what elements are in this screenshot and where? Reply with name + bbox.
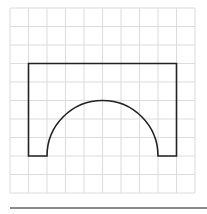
bottom-divider-rule (10, 207, 207, 209)
arch-on-grid-figure (0, 0, 207, 214)
